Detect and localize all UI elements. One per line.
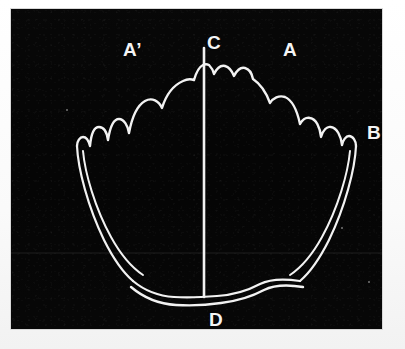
shell-outline-drawing (11, 9, 382, 329)
label-a-prime: A’ (123, 40, 142, 59)
label-a: A (283, 40, 297, 59)
ventral-margin-upper-line (133, 279, 300, 297)
crenulated-dorsal-margin (77, 64, 356, 146)
label-c: C (207, 33, 221, 52)
label-d: D (209, 310, 223, 329)
photographic-plate: A’ C A B D (11, 9, 382, 329)
figure-root: A’ C A B D (0, 0, 405, 349)
label-b: B (367, 123, 381, 142)
